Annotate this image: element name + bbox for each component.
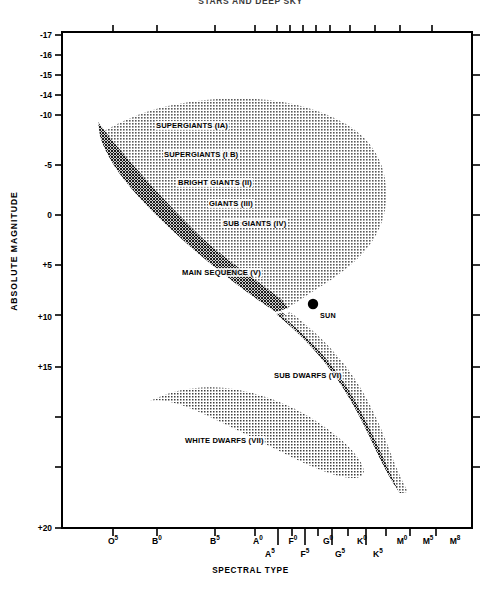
ytick-label-7: +5 (22, 260, 52, 270)
xtick-sup: 0 (404, 534, 408, 541)
xtick-label-m5: M5 (423, 536, 434, 546)
xtick-sup: 5 (342, 547, 346, 554)
xtick-letter: G (323, 536, 330, 546)
ytick-label-0: -17 (22, 30, 52, 40)
region-label-supergiants-ia: SUPERGIANTS (IA) (155, 121, 229, 130)
xtick-label-k0: K0 (357, 536, 367, 546)
xtick-label-g0: G0 (323, 536, 333, 546)
xtick-sup: 5 (306, 547, 310, 554)
region-label-white-dwarfs: WHITE DWARFS (VII) (184, 436, 265, 445)
xtick-label-m8: M8 (450, 536, 461, 546)
region-label-sub-dwarfs: SUB DWARFS (VI) (273, 371, 343, 380)
xtick-sup: 0 (294, 534, 298, 541)
sun-marker (308, 299, 318, 309)
xtick-sup: 5 (115, 534, 119, 541)
plot-area (0, 0, 501, 593)
xtick-sup: 5 (216, 534, 220, 541)
y-axis-ticks-right (472, 35, 480, 467)
ytick-label-1: -16 (22, 50, 52, 60)
y-axis-ticks (55, 35, 62, 528)
sun-annotation-label: SUN (320, 311, 336, 320)
region-label-supergiants-ib: SUPERGIANTS (I B) (163, 150, 239, 159)
xtick-label-f0: F0 (289, 536, 298, 546)
xtick-sup: 0 (259, 534, 263, 541)
ytick-label-2: -15 (22, 70, 52, 80)
xtick-letter: O (108, 536, 115, 546)
region-white-dwarfs-shape (150, 387, 364, 478)
ytick-label-3: -14 (22, 90, 52, 100)
xtick-sup: 5 (379, 547, 383, 554)
ytick-label-8: +10 (22, 312, 52, 322)
xtick-label-k5: K5 (373, 549, 383, 559)
region-label-bright-giants: BRIGHT GIANTS (II) (177, 178, 253, 187)
x-axis-ticks-top (113, 25, 432, 32)
xtick-sup: 8 (457, 534, 461, 541)
xtick-letter: G (335, 549, 342, 559)
xtick-sup: 5 (430, 534, 434, 541)
xtick-label-a5: A5 (265, 549, 275, 559)
hr-diagram-figure: STARS AND DEEP SKY ABSOLUTE MAGNITUDE SP… (0, 0, 501, 593)
xtick-label-g5: G5 (335, 549, 345, 559)
xtick-sup: 5 (271, 547, 275, 554)
region-label-sub-giants: SUB GIANTS (IV) (222, 219, 287, 228)
region-label-giants: GIANTS (III) (208, 199, 254, 208)
xtick-label-f5: F5 (301, 549, 310, 559)
xtick-sup: 0 (158, 534, 162, 541)
xtick-label-b5: B5 (210, 536, 220, 546)
ytick-label-4: -10 (22, 110, 52, 120)
ytick-label-6: 0 (22, 210, 52, 220)
xtick-sup: 0 (363, 534, 367, 541)
ytick-label-9: +15 (22, 362, 52, 372)
xtick-sup: 0 (330, 534, 334, 541)
xtick-label-o5: O5 (108, 536, 118, 546)
xtick-label-b0: B0 (152, 536, 162, 546)
region-label-main-sequence: MAIN SEQUENCE (V) (181, 268, 262, 277)
xtick-label-a0: A0 (253, 536, 263, 546)
xtick-label-m0: M0 (397, 536, 408, 546)
ytick-label-5: -5 (22, 160, 52, 170)
ytick-label-10: +20 (22, 523, 52, 533)
